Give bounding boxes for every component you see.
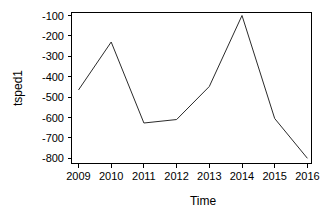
y-tick-label: -300 xyxy=(42,50,64,62)
y-tick-label: -800 xyxy=(42,152,64,164)
y-tick-label: -500 xyxy=(42,91,64,103)
y-tick-label: -200 xyxy=(42,30,64,42)
x-tick-label: 2013 xyxy=(197,170,221,182)
y-tick-label: -600 xyxy=(42,112,64,124)
x-tick-label: 2015 xyxy=(262,170,286,182)
y-tick-label: -400 xyxy=(42,71,64,83)
y-axis-title: tsped1 xyxy=(11,70,25,106)
x-tick-label: 2012 xyxy=(164,170,188,182)
y-tick-label: -100 xyxy=(42,10,64,22)
x-tick-label: 2010 xyxy=(99,170,123,182)
line-chart-svg: -100 -200 -300 -400 -500 -600 -700 -800 … xyxy=(0,0,334,218)
y-tick-label: -700 xyxy=(42,132,64,144)
x-tick-label: 2016 xyxy=(295,170,319,182)
x-axis-title: Time xyxy=(190,194,217,208)
x-tick-label: 2014 xyxy=(230,170,254,182)
chart-figure: -100 -200 -300 -400 -500 -600 -700 -800 … xyxy=(0,0,334,218)
x-tick-label: 2009 xyxy=(66,170,90,182)
x-tick-label: 2011 xyxy=(132,170,156,182)
